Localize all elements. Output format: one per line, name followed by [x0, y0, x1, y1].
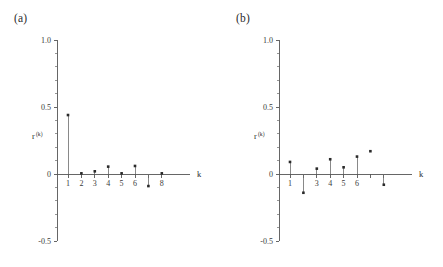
stem-marker: [147, 185, 150, 188]
stem-marker: [342, 166, 345, 169]
y-tick-label: -0.5: [38, 237, 51, 246]
y-axis-title: r(k): [32, 131, 43, 142]
panel-b: (b) 1.00.50-0.513456kr(k): [222, 0, 443, 267]
stem-marker: [107, 165, 110, 168]
y-tick-label: 0: [47, 170, 51, 179]
y-tick-label: -0.5: [260, 237, 273, 246]
stem-marker: [289, 161, 292, 164]
y-axis-title-base: r: [32, 131, 35, 141]
y-tick-label: 0.5: [263, 103, 273, 112]
stem-marker: [161, 172, 164, 175]
stem-marker: [329, 158, 332, 161]
y-tick-label: 0: [269, 170, 273, 179]
x-tick-label: 5: [120, 179, 124, 188]
stem-marker: [134, 165, 137, 168]
x-tick-label: 5: [342, 179, 346, 188]
x-tick-label: 4: [328, 179, 332, 188]
x-tick-label: 8: [160, 179, 164, 188]
x-tick-label: 3: [93, 179, 97, 188]
x-axis-title: k: [197, 169, 202, 179]
y-tick-label: 1.0: [263, 36, 273, 45]
x-tick-label: 3: [315, 179, 319, 188]
stem-marker: [356, 155, 359, 158]
y-tick-label: 0.5: [41, 103, 51, 112]
panel-a-plot: 1.00.50-0.51234568kr(k): [0, 0, 221, 267]
figure-container: (a) 1.00.50-0.51234568kr(k) (b) 1.00.50-…: [0, 0, 443, 267]
x-axis-title: k: [419, 169, 424, 179]
x-tick-label: 2: [79, 179, 83, 188]
x-tick-label: 6: [355, 179, 359, 188]
x-tick-label: 6: [133, 179, 137, 188]
y-axis-title-superscript: (k): [258, 131, 265, 138]
stem-marker: [369, 150, 372, 153]
y-axis-title-base: r: [254, 131, 257, 141]
stem-marker: [316, 167, 319, 170]
x-tick-label: 4: [106, 179, 110, 188]
panel-a: (a) 1.00.50-0.51234568kr(k): [0, 0, 221, 267]
y-axis-title-superscript: (k): [36, 131, 43, 138]
y-axis-title: r(k): [254, 131, 265, 142]
stem-marker: [383, 183, 386, 186]
stem-marker: [80, 172, 83, 175]
x-tick-label: 1: [66, 179, 70, 188]
x-tick-label: 1: [288, 179, 292, 188]
panel-b-plot: 1.00.50-0.513456kr(k): [222, 0, 443, 267]
y-tick-label: 1.0: [41, 36, 51, 45]
stem-marker: [67, 114, 70, 117]
stem-marker: [302, 191, 305, 194]
stem-marker: [94, 170, 97, 173]
stem-marker: [120, 172, 123, 175]
